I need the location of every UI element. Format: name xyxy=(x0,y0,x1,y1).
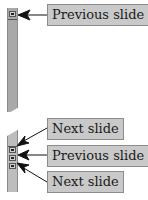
callout-label-next-slide: Next slide xyxy=(47,118,124,140)
callout-label-previous-slide: Previous slide xyxy=(47,4,148,26)
callout-label-previous-slide-lower: Previous slide xyxy=(47,145,148,167)
callout-label-next-slide-lower: Next slide xyxy=(47,171,124,193)
callout-arrows xyxy=(0,0,148,200)
